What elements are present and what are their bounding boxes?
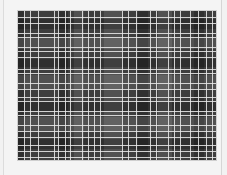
plaid-horizontal-thread: [18, 47, 216, 48]
plaid-horizontal-thread: [18, 17, 216, 18]
plaid-horizontal-thread: [18, 89, 216, 90]
plaid-horizontal-thread: [18, 33, 216, 34]
plaid-horizontal-thread: [18, 73, 216, 74]
plaid-horizontal-band: [18, 75, 216, 89]
plaid-horizontal-band: [18, 139, 216, 149]
plaid-horizontal-thread: [18, 51, 216, 52]
plaid-horizontal-band: [18, 101, 216, 111]
plaid-horizontal-thread: [18, 145, 216, 146]
plaid-fabric-image: [18, 11, 216, 160]
plaid-horizontal-thread: [18, 131, 216, 132]
plaid-horizontal-band: [18, 59, 216, 67]
plaid-horizontal-thread: [18, 97, 216, 98]
plaid-horizontal-band: [18, 117, 216, 131]
plaid-horizontal-thread: [18, 111, 216, 112]
plaid-horizontal-thread: [18, 137, 216, 138]
plaid-horizontal-thread: [18, 57, 216, 58]
plaid-horizontal-thread: [18, 23, 216, 24]
plaid-horizontal-band: [18, 19, 216, 29]
plaid-horizontal-thread: [18, 101, 216, 102]
plaid-horizontal-thread: [18, 151, 216, 152]
plaid-horizontal-thread: [18, 125, 216, 126]
plaid-horizontal-thread: [18, 83, 216, 84]
plaid-horizontal-thread: [18, 69, 216, 70]
plaid-horizontal-thread: [18, 37, 216, 38]
image-frame: [3, 0, 222, 175]
plaid-horizontal-thread: [18, 115, 216, 116]
plaid-horizontal-thread: [18, 157, 216, 158]
